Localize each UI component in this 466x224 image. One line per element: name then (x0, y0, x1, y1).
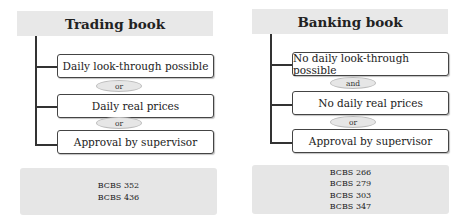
connector-or: or (96, 80, 142, 92)
branch-line (270, 104, 292, 106)
condition-box: No daily real prices (292, 91, 449, 115)
connector-or: or (96, 117, 142, 129)
connector-or: or (330, 116, 376, 128)
branch-line (270, 142, 292, 144)
branch-line (270, 64, 292, 66)
condition-box: Approval by supervisor (292, 129, 449, 153)
tree-trunk-line (35, 36, 37, 146)
references-box: BCBS 266 BCBS 279 BCBS 303 BCBS 347 (252, 165, 449, 214)
banking-book-title: Banking book (252, 9, 448, 34)
connector-and: and (330, 77, 376, 89)
reference: BCBS 352 (98, 180, 139, 192)
branch-line (35, 66, 57, 68)
reference: BCBS 436 (98, 192, 139, 204)
reference: BCBS 279 (330, 178, 371, 190)
trading-book-title: Trading book (17, 11, 213, 36)
condition-box: Daily look-through possible (57, 54, 214, 78)
reference: BCBS 266 (330, 167, 371, 179)
branch-line (35, 144, 57, 146)
condition-box: No daily look-through possible (292, 52, 449, 76)
reference: BCBS 303 (330, 190, 371, 202)
reference: BCBS 347 (330, 201, 371, 213)
branch-line (35, 106, 57, 108)
condition-box: Daily real prices (57, 94, 214, 118)
tree-trunk-line (270, 34, 272, 144)
references-box: BCBS 352 BCBS 436 (20, 168, 217, 215)
condition-box: Approval by supervisor (57, 130, 214, 154)
